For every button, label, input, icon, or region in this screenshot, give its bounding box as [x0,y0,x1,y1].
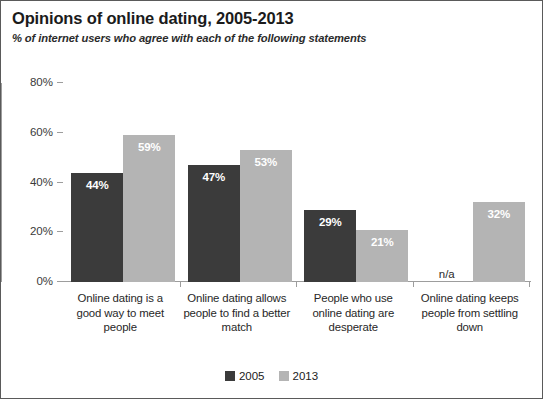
y-axis-line [1,83,2,282]
bar-na-label: n/a [421,268,473,280]
bar-2013-3: 21% [356,230,408,282]
y-axis-tick-labels: 0%20%40%60%80% [5,1,53,399]
bar-2013-4: 32% [473,202,525,282]
chart-subtitle: % of internet users who agree with each … [12,32,366,44]
y-axis-tick-label: 0% [9,275,53,287]
x-axis-tick-mark [296,282,297,287]
bar-value-label: 44% [71,179,123,191]
bar-2005-2: 47% [188,165,240,282]
bar-value-label: 32% [473,208,525,220]
y-axis-tick-label: 40% [9,176,53,188]
x-axis-category-label: Online dating keeps people from settling… [415,291,526,335]
bar-value-label: 47% [188,171,240,183]
y-axis-tick-label: 80% [9,76,53,88]
y-axis-tick-label: 20% [9,225,53,237]
legend-item-2005: 2005 [225,370,265,382]
chart-figure: Opinions of online dating, 2005-2013 % o… [0,0,543,399]
legend-label: 2013 [293,370,319,382]
x-axis-tick-mark [529,282,530,287]
bar-value-label: 53% [240,156,292,168]
x-axis-tick-mark [180,282,181,287]
chart-title: Opinions of online dating, 2005-2013 [12,9,294,28]
legend-item-2013: 2013 [279,370,319,382]
plot-area: 44%59%47%53%29%21%n/a32% [63,83,529,282]
legend-swatch-icon [225,371,235,381]
chart-legend: 20052013 [1,370,542,382]
x-axis-category-label: Online dating allows people to find a be… [182,291,293,335]
legend-swatch-icon [279,371,289,381]
bar-value-label: 29% [304,216,356,228]
y-axis-tick-label: 60% [9,126,53,138]
bar-value-label: 59% [123,141,175,153]
bar-2013-2: 53% [240,150,292,282]
x-axis-category-label: Online dating is a good way to meet peop… [65,291,176,335]
bar-value-label: 21% [356,236,408,248]
bar-2013-1: 59% [123,135,175,282]
x-axis-category-label: People who use online dating are despera… [298,291,409,335]
bar-2005-3: 29% [304,210,356,282]
x-axis-tick-mark [413,282,414,287]
legend-label: 2005 [239,370,265,382]
bar-2005-1: 44% [71,173,123,282]
